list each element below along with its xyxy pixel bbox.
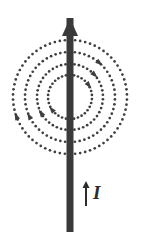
- field-line-dot: [90, 102, 93, 105]
- field-line-dot: [125, 103, 128, 106]
- field-line-dot: [59, 52, 62, 55]
- field-line-dot: [103, 125, 106, 128]
- field-line-dot: [82, 126, 85, 129]
- field-line-dot: [18, 123, 21, 126]
- field-line-dot: [78, 127, 81, 130]
- field-line-dot: [53, 41, 56, 44]
- field-line-dot: [12, 88, 15, 91]
- field-line-dot: [45, 57, 48, 60]
- field-line-dot: [38, 63, 41, 66]
- field-line-dot: [38, 107, 41, 110]
- field-line-dot: [83, 79, 86, 82]
- field-line-dot: [39, 47, 42, 50]
- field-line-dot: [86, 124, 89, 127]
- field-line-dot: [47, 102, 50, 105]
- field-line-dot: [24, 131, 27, 134]
- field-line-dot: [36, 89, 39, 92]
- field-line-dot: [12, 103, 15, 106]
- field-line-dot: [49, 42, 52, 45]
- field-line-dot: [74, 140, 77, 143]
- current-label: I: [93, 183, 100, 202]
- field-line-dot: [50, 55, 53, 58]
- field-line-dot: [89, 42, 92, 45]
- field-line-dot: [108, 117, 111, 120]
- field-line-dot: [54, 138, 57, 141]
- field-line-dot: [90, 90, 93, 93]
- field-line-dot: [96, 131, 99, 134]
- field-line-dot: [92, 134, 95, 137]
- field-line-dot: [38, 85, 41, 88]
- field-line-dot: [53, 151, 56, 154]
- field-line-dot: [54, 53, 57, 56]
- field-line-dot: [50, 136, 53, 139]
- field-line-dot: [13, 83, 16, 86]
- field-line-dot: [73, 63, 76, 66]
- field-line-dot: [119, 123, 122, 126]
- field-line-dot: [74, 51, 77, 54]
- field-line-dot: [52, 67, 55, 70]
- field-line-dot: [106, 70, 109, 73]
- field-line-dot: [16, 73, 19, 76]
- field-line-dot: [77, 75, 80, 78]
- field-line-dot: [61, 75, 64, 78]
- field-line-dot: [126, 98, 129, 101]
- field-line-dot: [31, 70, 34, 73]
- field-line-dot: [60, 64, 63, 67]
- field-line-dot: [80, 114, 83, 117]
- field-line-dot: [96, 115, 99, 118]
- field-direction-arrowhead: [85, 81, 92, 89]
- field-line-dot: [86, 67, 89, 70]
- field-line-dot: [113, 103, 116, 106]
- field-line-dot: [82, 65, 85, 68]
- field-line-dot: [73, 128, 76, 131]
- field-line-dot: [24, 98, 27, 101]
- field-line-dot: [36, 98, 39, 101]
- field-line-dot: [101, 89, 104, 92]
- field-line-dot: [34, 67, 37, 70]
- field-line-dot: [100, 107, 103, 110]
- field-line-dot: [60, 127, 63, 130]
- field-line-dot: [41, 131, 44, 134]
- field-line-dot: [102, 98, 105, 101]
- field-line-dot: [74, 39, 77, 42]
- field-line-dot: [74, 152, 77, 155]
- field-line-dot: [47, 94, 50, 97]
- field-line-dot: [52, 124, 55, 127]
- field-line-dot: [24, 88, 27, 91]
- vertical-current-wire: [62, 18, 78, 232]
- field-line-dot: [103, 67, 106, 70]
- field-direction-arrowhead: [15, 112, 20, 120]
- field-line-dot: [44, 147, 47, 150]
- field-line-dot: [106, 121, 109, 124]
- field-direction-arrowhead: [95, 59, 103, 66]
- field-line-dot: [121, 73, 124, 76]
- field-line-dot: [57, 77, 60, 80]
- field-line-dot: [110, 79, 113, 82]
- field-line-dot: [126, 93, 129, 96]
- field-line-dot: [101, 102, 104, 105]
- field-line-dot: [83, 53, 86, 56]
- field-line-dot: [54, 112, 57, 115]
- field-line-dot: [89, 70, 92, 73]
- field-line-dot: [98, 145, 101, 148]
- field-line-dot: [102, 50, 105, 53]
- field-line-dot: [64, 128, 67, 131]
- field-line-dot: [91, 98, 94, 101]
- field-line-dot: [125, 88, 128, 91]
- field-line-dot: [93, 118, 96, 121]
- field-line-dot: [47, 98, 50, 101]
- field-line-dot: [64, 152, 67, 155]
- field-line-dot: [25, 108, 28, 111]
- field-line-dot: [24, 60, 27, 63]
- field-line-dot: [116, 64, 119, 67]
- field-line-dot: [57, 114, 60, 117]
- field-line-dot: [98, 80, 101, 83]
- field-line-dot: [21, 127, 24, 130]
- field-line-dot: [100, 128, 103, 131]
- field-line-dot: [45, 73, 48, 76]
- field-line-dot: [34, 125, 37, 128]
- field-line-dot: [88, 136, 91, 139]
- field-line-dot: [12, 93, 15, 96]
- field-line-dot: [77, 116, 80, 119]
- field-line-dot: [84, 151, 87, 154]
